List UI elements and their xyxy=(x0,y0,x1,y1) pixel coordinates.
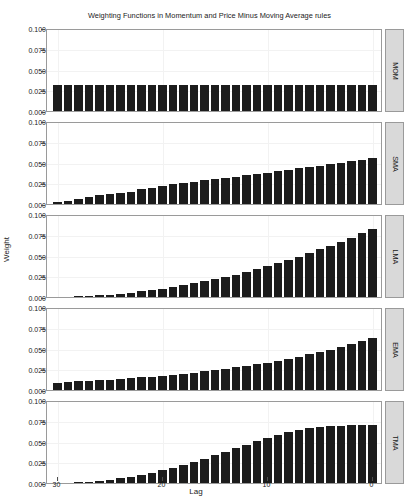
y-axis-ticks: 0.0000.0250.0500.0750.100 xyxy=(0,308,46,391)
bar xyxy=(85,85,93,111)
bar xyxy=(116,85,124,111)
bar xyxy=(316,427,324,483)
bar xyxy=(179,374,187,390)
bar xyxy=(305,428,313,483)
bar xyxy=(284,260,292,297)
y-tick-mark xyxy=(41,215,45,216)
bar xyxy=(337,426,345,483)
y-tick-mark xyxy=(41,112,45,113)
bar xyxy=(169,287,177,297)
bar xyxy=(74,296,82,297)
bar xyxy=(95,380,103,390)
y-tick-mark xyxy=(41,277,45,278)
bar xyxy=(85,296,93,297)
bar xyxy=(190,182,198,204)
plot-area xyxy=(46,308,382,391)
bar xyxy=(211,279,219,297)
bar xyxy=(221,369,229,390)
y-tick-mark xyxy=(41,143,45,144)
bar xyxy=(358,341,366,390)
facet-strip-label: TMA xyxy=(390,435,399,450)
y-tick-mark xyxy=(41,29,45,30)
bar xyxy=(137,291,145,297)
bar xyxy=(158,289,166,297)
bar xyxy=(326,246,334,297)
bar xyxy=(368,338,376,390)
bar xyxy=(64,382,72,390)
bar xyxy=(347,85,355,111)
bar xyxy=(347,161,355,204)
facet-strip-label: MOM xyxy=(390,62,399,80)
facet-panel-sma: 0.0000.0250.0500.0750.100SMA xyxy=(0,122,419,205)
y-axis-ticks: 0.0000.0250.0500.0750.100 xyxy=(0,401,46,484)
plot-area xyxy=(46,29,382,112)
y-tick-mark xyxy=(41,401,45,402)
bar xyxy=(106,380,114,390)
bar xyxy=(263,266,271,297)
bar xyxy=(190,373,198,390)
bar xyxy=(232,177,240,204)
bar xyxy=(368,85,376,111)
bar-series xyxy=(47,216,381,297)
panel-stack: 0.0000.0250.0500.0750.100MOM0.0000.0250.… xyxy=(0,0,419,503)
bar xyxy=(347,425,355,483)
bar xyxy=(274,361,282,390)
x-axis-label: Lag xyxy=(0,487,392,496)
facet-strip-label: LMA xyxy=(390,249,399,264)
bar xyxy=(179,85,187,111)
bar xyxy=(106,85,114,111)
bar xyxy=(347,344,355,390)
bar xyxy=(316,352,324,390)
bar xyxy=(200,371,208,390)
y-tick-mark xyxy=(41,443,45,444)
bar xyxy=(137,85,145,111)
facet-panel-tma: 0.0000.0250.0500.0750.100TMA xyxy=(0,401,419,484)
bar xyxy=(295,257,303,297)
bar xyxy=(284,359,292,390)
bar xyxy=(137,377,145,390)
bar xyxy=(232,275,240,297)
bar xyxy=(85,381,93,390)
bar xyxy=(95,195,103,204)
facet-strip-tma: TMA xyxy=(385,401,404,484)
y-tick-mark xyxy=(41,122,45,123)
facet-strip-label: EMA xyxy=(390,342,399,358)
bar xyxy=(148,290,156,297)
facet-strip-mom: MOM xyxy=(385,29,404,112)
bar xyxy=(253,85,261,111)
bar xyxy=(74,85,82,111)
bar xyxy=(64,201,72,204)
y-tick-mark xyxy=(41,50,45,51)
bar xyxy=(179,285,187,297)
y-tick-mark xyxy=(41,463,45,464)
bar xyxy=(368,425,376,483)
bar xyxy=(358,425,366,483)
y-tick-mark xyxy=(41,71,45,72)
bar xyxy=(127,293,135,297)
y-tick-mark xyxy=(41,308,45,309)
bar xyxy=(316,85,324,111)
bar-series xyxy=(47,123,381,204)
bar xyxy=(169,375,177,390)
y-axis-ticks: 0.0000.0250.0500.0750.100 xyxy=(0,122,46,205)
y-tick-mark xyxy=(41,205,45,206)
bar xyxy=(232,367,240,390)
plot-area xyxy=(46,401,382,484)
bar xyxy=(337,85,345,111)
bar xyxy=(242,366,250,390)
bar xyxy=(211,85,219,111)
bar xyxy=(358,160,366,204)
bar xyxy=(284,85,292,111)
bar xyxy=(253,174,261,204)
bar xyxy=(53,202,61,204)
y-tick-mark xyxy=(41,257,45,258)
bar xyxy=(316,166,324,204)
plot-area xyxy=(46,215,382,298)
bar xyxy=(200,85,208,111)
bar xyxy=(347,238,355,297)
bar xyxy=(127,378,135,390)
bar xyxy=(295,85,303,111)
bar xyxy=(305,354,313,390)
bar xyxy=(211,370,219,390)
bar xyxy=(284,432,292,483)
